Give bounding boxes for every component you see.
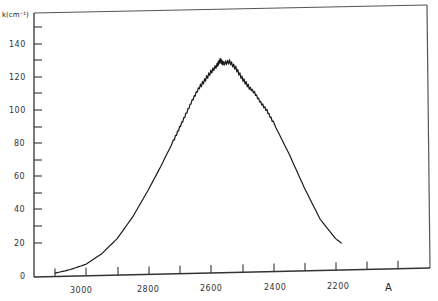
x-tick-label-2200: 2200 xyxy=(327,282,349,291)
y-tick-label-140: 140 xyxy=(9,40,26,49)
frame-top xyxy=(34,5,427,13)
frame-right xyxy=(427,5,430,268)
y-tick-label-0: 0 xyxy=(20,272,26,281)
x-tick-label-2600: 2600 xyxy=(200,284,222,293)
x-axis xyxy=(34,268,430,277)
x-axis-unit: A xyxy=(385,282,392,293)
y-axis-title: k(cm⁻¹) xyxy=(2,11,29,19)
y-tick-label-120: 120 xyxy=(9,73,26,82)
absorption-chart: k(cm⁻¹) 140 120 100 80 60 40 20 0 3000 2… xyxy=(0,0,438,301)
y-tick-label-60: 60 xyxy=(14,172,25,181)
y-tick-label-20: 20 xyxy=(14,239,25,248)
x-tick-label-3000: 3000 xyxy=(70,286,92,295)
x-ticks xyxy=(55,261,398,277)
y-tick-label-80: 80 xyxy=(14,139,25,148)
x-tick-label-2400: 2400 xyxy=(264,283,286,292)
y-tick-label-40: 40 xyxy=(14,205,25,214)
y-ticks xyxy=(34,27,42,243)
y-tick-label-100: 100 xyxy=(9,106,26,115)
x-tick-label-2800: 2800 xyxy=(137,285,159,294)
absorption-curve xyxy=(55,58,342,273)
